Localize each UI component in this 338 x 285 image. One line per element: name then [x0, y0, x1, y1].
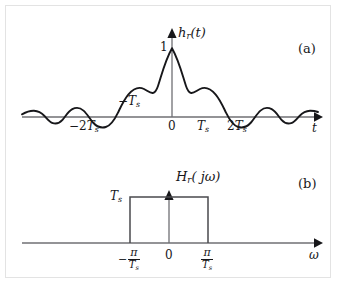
panel-a-tag: (a) — [298, 42, 316, 55]
x-tick-label-minus-Ts: −Ts — [118, 95, 140, 109]
omega-tick-label-positive-cutoff: π Ts — [201, 247, 213, 272]
panel-b-tag: (b) — [298, 177, 316, 190]
panel-b-x-axis-label: ω — [309, 249, 319, 261]
omega-tick-label-negative-cutoff: − π Ts — [118, 247, 140, 272]
panel-a-x-axis-label: t — [312, 122, 317, 134]
x-tick-label-minus-2Ts: −2Ts — [69, 120, 99, 134]
panel-a-axes — [22, 28, 323, 122]
omega-tick-label-zero: 0 — [165, 249, 173, 261]
panel-b-y-axis-arrow — [164, 190, 173, 200]
x-tick-label-zero: 0 — [168, 120, 176, 132]
panel-b-height-label: Ts — [110, 190, 122, 204]
x-tick-label-Ts: Ts — [197, 120, 209, 134]
x-tick-label-2Ts: 2Ts — [227, 120, 247, 134]
figure-container: (a) hr(t) 1 −2Ts −Ts 0 Ts 2Ts t (b) Hr( … — [0, 0, 338, 285]
figure-graphics — [0, 0, 338, 285]
panel-a-peak-label: 1 — [160, 41, 168, 53]
panel-a-y-axis-label: hr(t) — [178, 26, 206, 41]
panel-a-y-axis-arrow — [167, 28, 176, 38]
panel-b-y-axis-label: Hr( jω) — [176, 170, 220, 185]
panel-b-x-axis-arrow — [314, 238, 323, 248]
panel-b-axes — [22, 190, 323, 248]
sinc-curve — [22, 48, 318, 127]
